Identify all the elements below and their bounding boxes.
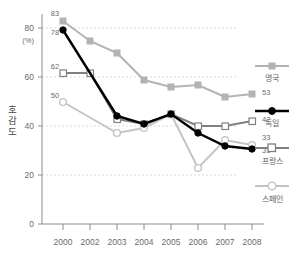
y-tick-label-60: 60 [25, 72, 35, 82]
series-germany-first-value-label: 78 [51, 28, 59, 37]
x-axis-tick-labels: 2000 2002 2003 2004 2005 2006 2007 2008 [54, 237, 262, 247]
legend-item-uk[interactable]: 영국 [255, 63, 289, 83]
series-germany-point-2006 [195, 130, 201, 136]
series-uk-first-value-label: 83 [51, 9, 59, 18]
chart-legend: 영국 독일 프랑스 스페인 [255, 63, 289, 204]
gridlines [42, 28, 238, 175]
series-france-point-2006 [195, 123, 202, 130]
y-axis-title-char-3: 도 [8, 126, 17, 137]
series-france-point-2008 [249, 118, 256, 125]
series-germany-point-2007 [222, 143, 228, 149]
series-france-first-value-label: 62 [51, 62, 59, 71]
series-uk-point-2006 [195, 82, 201, 88]
series-uk-point-2003 [114, 50, 120, 56]
series-germany-point-2003 [114, 113, 120, 119]
series-germany-point-2004 [141, 121, 147, 127]
series-uk-last-value-label: 53 [262, 88, 270, 97]
x-tick-label-2000: 2000 [54, 237, 73, 247]
y-tick-label-0: 0 [29, 219, 34, 229]
legend-germany-marker-icon [269, 108, 276, 115]
series-germany: 78 31 [51, 27, 271, 155]
y-tick-label-20: 20 [25, 170, 35, 180]
series-france-point-2007 [222, 123, 229, 130]
series-spain-point-2003 [114, 130, 121, 137]
series-spain-point-2000 [60, 99, 67, 106]
series-spain: 50 33 [51, 91, 271, 171]
x-tick-label-2006: 2006 [189, 237, 208, 247]
y-axis-unit-label: (%) [22, 36, 34, 45]
legend-item-germany[interactable]: 독일 [255, 108, 289, 128]
legend-spain-marker-icon [268, 182, 276, 190]
x-tick-label-2002: 2002 [81, 237, 100, 247]
series-spain-first-value-label: 50 [51, 91, 59, 100]
x-tick-label-2003: 2003 [108, 237, 127, 247]
series-germany-point-2000 [60, 27, 66, 33]
y-axis-title-char-2: 감 [8, 115, 17, 126]
legend-uk-marker-icon [269, 63, 275, 69]
y-axis-title-char-1: 호 [8, 104, 17, 115]
series-germany-point-2008 [249, 146, 255, 152]
series-france-point-2000 [60, 70, 67, 77]
series-uk-point-2007 [222, 94, 228, 100]
series-uk-line [63, 21, 252, 97]
x-tick-label-2008: 2008 [243, 237, 262, 247]
y-tick-label-40: 40 [25, 121, 35, 131]
x-tick-label-2005: 2005 [162, 237, 181, 247]
legend-item-label-germany: 독일 [265, 119, 279, 128]
x-tick-label-2007: 2007 [216, 237, 235, 247]
series-uk-point-2000 [60, 18, 66, 24]
favorability-line-chart: 80 60 40 20 0 (%) 호 감 도 2000 2002 2003 2… [0, 0, 300, 266]
x-tick-label-2004: 2004 [135, 237, 154, 247]
series-spain-line [63, 102, 252, 168]
series-spain-last-value-label: 33 [262, 133, 270, 142]
y-axis-tick-labels: 80 60 40 20 0 (%) [22, 23, 34, 229]
legend-item-label-uk: 영국 [265, 73, 279, 83]
series-uk-point-2002 [87, 38, 93, 44]
legend-item-label-france: 프랑스 [262, 156, 283, 166]
legend-item-spain[interactable]: 스페인 [255, 182, 289, 204]
series-uk-point-2005 [168, 84, 174, 90]
legend-france-marker-icon [268, 144, 276, 152]
legend-item-france[interactable]: 프랑스 [255, 144, 289, 166]
series-uk-point-2008 [249, 91, 255, 97]
chart-svg: 80 60 40 20 0 (%) 호 감 도 2000 2002 2003 2… [0, 0, 300, 266]
series-spain-point-2006 [195, 165, 202, 172]
series-uk: 83 53 [51, 9, 271, 100]
legend-item-label-spain: 스페인 [262, 194, 283, 204]
series-germany-point-2005 [168, 111, 174, 117]
y-tick-label-80: 80 [25, 23, 35, 33]
series-uk-point-2004 [141, 77, 147, 83]
series-germany-line [63, 30, 252, 149]
y-axis-title: 호 감 도 [8, 104, 17, 137]
